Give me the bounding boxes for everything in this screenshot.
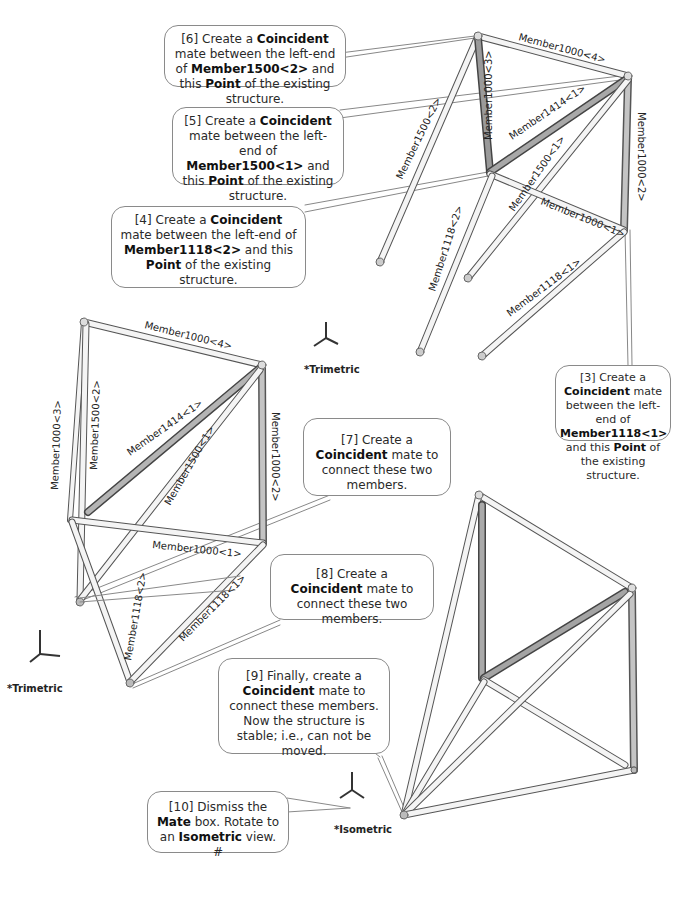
svg-text:Member1118<1>: Member1118<1>: [505, 256, 583, 319]
diagram-stage: Member1000<4> Member1000<3> Member1414<1…: [0, 0, 674, 897]
top-structure: [305, 32, 632, 365]
svg-text:Member1000<2>: Member1000<2>: [636, 112, 647, 202]
svg-text:Member1118<2>: Member1118<2>: [122, 571, 148, 661]
callout-step-10: [10] Dismiss the Mate box. Rotate to an …: [147, 791, 289, 853]
svg-text:Member1000<3>: Member1000<3>: [483, 50, 494, 140]
middle-structure: [70, 318, 330, 688]
triad-top: [314, 322, 338, 346]
svg-text:Member1500<1>: Member1500<1>: [162, 424, 216, 507]
svg-text:Member1500<2>: Member1500<2>: [88, 380, 102, 470]
callout-step-5: [5] Create a Coincident mate between the…: [172, 107, 344, 185]
svg-text:Member1000<1>: Member1000<1>: [539, 196, 626, 240]
callout-step-9: [9] Finally, create a Coincident mate to…: [218, 658, 390, 754]
orientation-label-middle: *Trimetric: [7, 683, 63, 694]
bottom-structure: [378, 491, 637, 819]
svg-text:Member1000<3>: Member1000<3>: [49, 400, 63, 490]
callout-step-7: [7] Create a Coincident mate to connect …: [303, 418, 451, 496]
orientation-label-bottom: *Isometric: [334, 824, 392, 835]
callout-step-8: [8] Create a Coincident mate to connect …: [270, 554, 434, 620]
callout-step-4: [4] Create a Coincident mate between the…: [111, 206, 306, 288]
orientation-label-top: *Trimetric: [304, 364, 360, 375]
callout-step-3: [3] Create a Coincident mate between the…: [555, 365, 671, 441]
svg-text:Member1000<2>: Member1000<2>: [270, 412, 281, 502]
triad-middle: [30, 630, 60, 662]
triad-bottom: [340, 772, 364, 798]
callout-step-6: [6] Create a Coincident mate between the…: [164, 25, 346, 87]
